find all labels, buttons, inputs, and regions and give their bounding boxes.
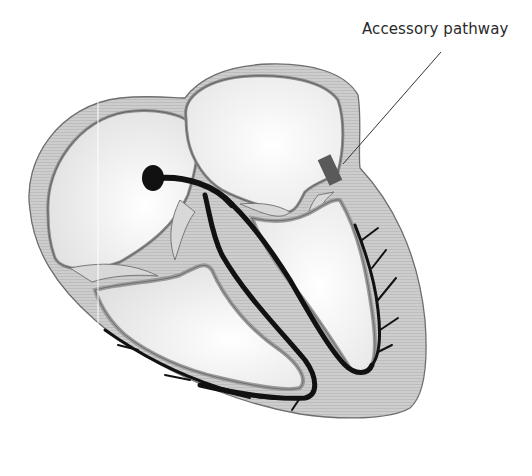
heart-illustration — [0, 0, 532, 476]
heart-diagram: Accessory pathway — [0, 0, 532, 476]
sinoatrial-node — [142, 165, 164, 191]
accessory-pathway-label: Accessory pathway — [362, 20, 508, 38]
